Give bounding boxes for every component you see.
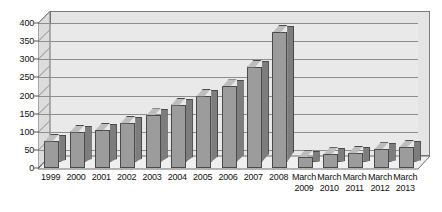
bar-side-face bbox=[389, 143, 396, 162]
bar-side-face bbox=[262, 61, 269, 163]
bar-side-face bbox=[135, 117, 142, 162]
x-axis-label-line1: 2002 bbox=[117, 172, 136, 182]
x-axis-label-line1: 2004 bbox=[168, 172, 187, 182]
bar-front-face bbox=[323, 154, 338, 168]
x-axis-label-line1: 2007 bbox=[244, 172, 263, 182]
bar bbox=[348, 153, 363, 168]
bar-side-face bbox=[414, 141, 421, 162]
bar bbox=[171, 105, 186, 168]
bar-front-face bbox=[70, 132, 85, 168]
bar bbox=[399, 147, 414, 168]
x-axis-label-line1: March bbox=[343, 172, 367, 182]
bar-front-face bbox=[196, 96, 211, 169]
bar-front-face bbox=[171, 105, 186, 168]
x-axis-label-line1: 2006 bbox=[218, 172, 237, 182]
bar-front-face bbox=[348, 153, 363, 168]
bar bbox=[120, 123, 135, 168]
x-axis-label-line1: March bbox=[292, 172, 316, 182]
bar bbox=[70, 132, 85, 168]
bar-front-face bbox=[120, 123, 135, 168]
bar-side-face bbox=[338, 148, 345, 162]
bar bbox=[95, 130, 110, 168]
bar-side-face bbox=[313, 151, 320, 162]
x-axis-labels: 1999200020012002200320042005200620072008… bbox=[0, 172, 442, 212]
bar bbox=[222, 86, 237, 168]
bar-front-face bbox=[298, 157, 313, 168]
x-axis-label: March2013 bbox=[390, 172, 421, 194]
bar-front-face bbox=[399, 147, 414, 168]
x-axis-label-line1: March bbox=[368, 172, 392, 182]
bar-side-face bbox=[110, 124, 117, 162]
bar bbox=[44, 141, 59, 168]
x-axis-label-line1: 2001 bbox=[92, 172, 111, 182]
x-axis-label-line1: 2005 bbox=[193, 172, 212, 182]
bar-front-face bbox=[272, 32, 287, 168]
bar bbox=[298, 157, 313, 168]
bar bbox=[247, 67, 262, 169]
bar-front-face bbox=[146, 115, 161, 168]
x-axis-label-line1: 1999 bbox=[41, 172, 60, 182]
x-axis-label-line1: March bbox=[393, 172, 417, 182]
bar-side-face bbox=[59, 135, 66, 162]
bar-side-face bbox=[161, 109, 168, 162]
bar bbox=[323, 154, 338, 168]
bar-side-face bbox=[237, 80, 244, 162]
bar bbox=[272, 32, 287, 168]
x-axis-label-line1: March bbox=[317, 172, 341, 182]
bar-side-face bbox=[85, 126, 92, 162]
bar-side-face bbox=[211, 90, 218, 163]
bar-side-face bbox=[363, 147, 370, 162]
bar bbox=[146, 115, 161, 168]
bar-front-face bbox=[247, 67, 262, 169]
x-axis-label-line1: 2000 bbox=[66, 172, 85, 182]
bar-front-face bbox=[374, 149, 389, 168]
bar-front-face bbox=[95, 130, 110, 168]
bar bbox=[196, 96, 211, 169]
bar-chart: 050100150200250300350400 199920002001200… bbox=[0, 0, 442, 212]
x-axis-label-line2: 2013 bbox=[390, 183, 421, 194]
bar-side-face bbox=[186, 99, 193, 162]
x-axis-label-line1: 2003 bbox=[142, 172, 161, 182]
bar-front-face bbox=[222, 86, 237, 168]
bar bbox=[374, 149, 389, 168]
x-axis-label-line1: 2008 bbox=[269, 172, 288, 182]
bar-front-face bbox=[44, 141, 59, 168]
bar-side-face bbox=[287, 26, 294, 162]
